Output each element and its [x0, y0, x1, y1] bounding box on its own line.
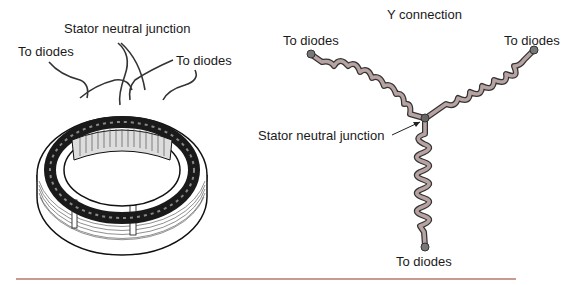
y-connection-title: Y connection — [387, 8, 462, 21]
right-label-to-diodes: To diodes — [176, 54, 232, 67]
to-diodes-top-left: To diodes — [283, 34, 339, 47]
terminal-top-left — [307, 50, 315, 58]
left-label-to-diodes: To diodes — [18, 45, 74, 58]
to-diodes-bottom: To diodes — [396, 255, 452, 268]
neutral-junction-dot — [421, 114, 429, 122]
bottom-divider — [16, 278, 516, 280]
terminal-bottom — [421, 243, 429, 251]
stator-neutral-junction-label: Stator neutral junction — [258, 129, 384, 142]
y-connection-diagram — [307, 46, 538, 251]
stator-illustration — [37, 43, 207, 255]
to-diodes-top-right: To diodes — [504, 34, 560, 47]
left-title-stator-neutral-junction: Stator neutral junction — [64, 22, 190, 35]
